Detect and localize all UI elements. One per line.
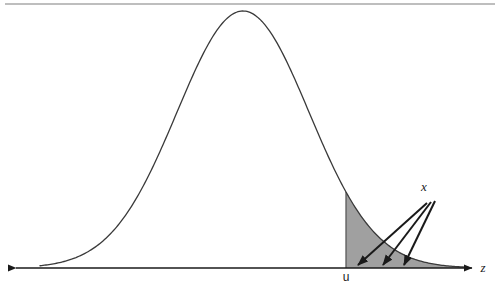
- normal-curve: [40, 11, 468, 267]
- callout-arrow-2: [383, 202, 431, 265]
- figure-canvas: x u z: [0, 0, 501, 297]
- tail-callout-label: x: [420, 179, 427, 194]
- x-axis-label: z: [479, 260, 485, 275]
- threshold-tick-label: u: [343, 270, 350, 284]
- normal-distribution-figure: x u z: [0, 0, 501, 297]
